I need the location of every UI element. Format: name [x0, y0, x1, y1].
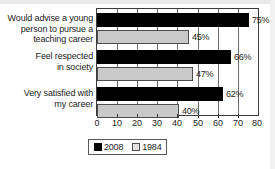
category-label-respected-in-society: Feel respected in society [1, 51, 93, 72]
x-tick-label-10: 10 [112, 118, 122, 128]
x-tick-label-30: 30 [152, 118, 162, 128]
category-label-line: Would advise a young [1, 13, 93, 24]
x-tick-mark-10 [117, 114, 118, 118]
bar-2008-advise-teaching-career[interactable] [97, 13, 249, 27]
bar-value-2008-very-satisfied-career: 62% [226, 90, 243, 99]
category-label-line: my career [1, 99, 93, 110]
bar-group-advise-teaching-career: 75% 45% [97, 13, 258, 47]
category-label-line: teaching career [1, 34, 93, 45]
x-tick-label-20: 20 [132, 118, 142, 128]
x-axis: 0 10 20 30 40 50 60 70 80 [96, 118, 259, 130]
category-label-advise-teaching-career: Would advise a young person to pursue a … [1, 13, 93, 45]
category-label-line: in society [1, 62, 93, 73]
bar-value-1984-respected-in-society: 47% [196, 70, 213, 79]
x-tick-mark-40 [177, 114, 178, 118]
bar-1984-respected-in-society[interactable] [97, 67, 193, 81]
x-tick-mark-50 [198, 114, 199, 118]
x-tick-label-50: 50 [193, 118, 203, 128]
category-label-line: Feel respected [1, 51, 93, 62]
category-label-very-satisfied-career: Very satisfied with my career [1, 88, 93, 109]
x-tick-label-70: 70 [233, 118, 243, 128]
legend-item-1984[interactable]: 1984 [132, 143, 161, 152]
legend-label-2008: 2008 [104, 143, 123, 152]
x-tick-label-80: 80 [252, 118, 262, 128]
bar-2008-respected-in-society[interactable] [97, 50, 231, 64]
plot-area: 75% 45% 66% 47% 62% 40% [96, 8, 259, 116]
x-tick-mark-30 [157, 114, 158, 118]
bar-group-respected-in-society: 66% 47% [97, 50, 258, 84]
bar-value-2008-advise-teaching-career: 75% [252, 16, 269, 25]
legend-item-2008[interactable]: 2008 [94, 143, 123, 152]
legend-label-1984: 1984 [142, 143, 161, 152]
light-gray-square-swatch-icon [132, 143, 140, 151]
category-label-line: person to pursue a [1, 24, 93, 35]
bar-2008-very-satisfied-career[interactable] [97, 87, 223, 101]
black-square-swatch-icon [94, 143, 102, 151]
category-label-line: Very satisfied with [1, 88, 93, 99]
x-tick-label-40: 40 [172, 118, 182, 128]
legend: 2008 1984 [88, 139, 167, 155]
x-tick-mark-60 [218, 114, 219, 118]
bar-value-1984-advise-teaching-career: 45% [192, 33, 209, 42]
bar-value-1984-very-satisfied-career: 40% [182, 107, 199, 116]
bar-1984-very-satisfied-career[interactable] [97, 104, 179, 118]
grouped-bar-chart: Would advise a young person to pursue a … [0, 0, 275, 169]
x-tick-label-60: 60 [213, 118, 223, 128]
x-tick-mark-20 [137, 114, 138, 118]
x-tick-label-0: 0 [94, 118, 99, 128]
bar-1984-advise-teaching-career[interactable] [97, 30, 189, 44]
x-tick-mark-70 [238, 114, 239, 118]
bar-value-2008-respected-in-society: 66% [234, 53, 251, 62]
